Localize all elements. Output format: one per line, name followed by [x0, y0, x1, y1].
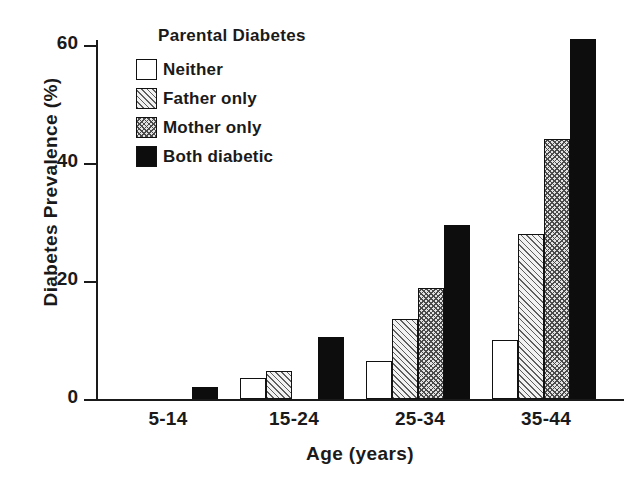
y-tick-40: 40	[84, 163, 96, 165]
y-tick-label-60: 60	[32, 33, 78, 53]
bar-15-24-father-only	[266, 371, 292, 399]
legend-label-mother-only: Mother only	[163, 118, 262, 138]
x-axis-title: Age (years)	[96, 443, 624, 465]
bar-25-34-mother-only	[418, 288, 444, 399]
bar-chart-figure: Diabetes Prevalence (%) 60 40 20 0 5-14	[0, 0, 644, 483]
y-tick-0: 0	[84, 399, 96, 401]
bar-group-25-34	[366, 40, 474, 399]
legend-item-neither: Neither	[136, 55, 346, 84]
bar-5-14-both-diabetic	[192, 387, 218, 399]
legend-title: Parental Diabetes	[158, 26, 346, 46]
y-tick-label-20: 20	[32, 269, 78, 289]
legend-swatch-mother-only	[136, 117, 157, 138]
y-tick-label-40: 40	[32, 151, 78, 171]
bar-group-35-44	[492, 40, 600, 399]
bar-25-34-neither	[366, 361, 392, 399]
x-axis-line	[96, 399, 624, 401]
bar-35-44-neither	[492, 340, 518, 399]
x-tick-label-5-14: 5-14	[114, 408, 222, 430]
bar-35-44-father-only	[518, 234, 544, 399]
bar-25-34-father-only	[392, 319, 418, 399]
y-tick-label-0: 0	[32, 387, 78, 407]
bar-15-24-both-diabetic	[318, 337, 344, 399]
legend-label-father-only: Father only	[163, 89, 257, 109]
legend-label-both-diabetic: Both diabetic	[163, 147, 273, 167]
legend-swatch-father-only	[136, 88, 157, 109]
x-tick-label-15-24: 15-24	[240, 408, 348, 430]
legend-item-father-only: Father only	[136, 84, 346, 113]
x-tick-label-35-44: 35-44	[492, 408, 600, 430]
bar-25-34-both-diabetic	[444, 225, 470, 399]
y-axis-line	[96, 40, 98, 400]
y-tick-20: 20	[84, 281, 96, 283]
legend-swatch-both-diabetic	[136, 146, 157, 167]
y-axis-title: Diabetes Prevalence (%)	[40, 42, 62, 342]
bar-35-44-both-diabetic	[570, 39, 596, 399]
x-tick-label-25-34: 25-34	[366, 408, 474, 430]
bar-15-24-neither	[240, 378, 266, 399]
bar-35-44-mother-only	[544, 139, 570, 399]
legend-label-neither: Neither	[163, 60, 223, 80]
legend-item-mother-only: Mother only	[136, 113, 346, 142]
legend-item-both-diabetic: Both diabetic	[136, 142, 346, 171]
legend-swatch-neither	[136, 59, 157, 80]
chart-legend: Parental Diabetes Neither Father only Mo…	[136, 26, 346, 171]
y-tick-60: 60	[84, 45, 96, 47]
